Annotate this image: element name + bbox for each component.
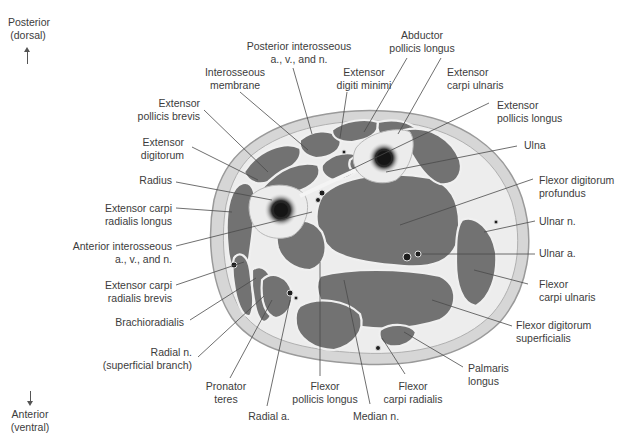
label-flexor-digitorum-superficialis: Flexor digitorum superficialis xyxy=(516,319,591,344)
label-ulna: Ulna xyxy=(524,139,546,152)
label-pronator-teres: Pronator teres xyxy=(196,380,256,405)
posterior-arrow-icon xyxy=(27,50,28,64)
label-extensor-carpi-ulnaris: Extensor carpi ulnaris xyxy=(447,66,504,91)
label-flexor-pollicis-longus: Flexor pollicis longus xyxy=(285,380,365,405)
label-flexor-carpi-ulnaris: Flexor carpi ulnaris xyxy=(539,278,596,303)
label-interosseous-membrane: Interosseous membrane xyxy=(200,66,270,91)
label-ulnar-n: Ulnar n. xyxy=(539,215,576,228)
label-anterior-interosseous: Anterior interosseous a., v., and n. xyxy=(50,240,172,265)
label-flexor-carpi-radialis: Flexor carpi radialis xyxy=(375,380,451,405)
anterior-orientation-label: Anterior (ventral) xyxy=(10,408,50,433)
label-posterior-interosseous: Posterior interosseous a., v., and n. xyxy=(240,40,358,65)
posterior-orientation-label: Posterior (dorsal) xyxy=(8,16,48,41)
label-extensor-pollicis-brevis: Extensor pollicis brevis xyxy=(120,97,200,122)
label-extensor-carpi-radialis-longus: Extensor carpi radialis longus xyxy=(70,202,172,227)
label-radial-n: Radial n. (superficial branch) xyxy=(80,346,192,371)
anterior-arrowhead-icon xyxy=(27,401,33,406)
radius-bone xyxy=(249,185,308,238)
label-extensor-digitorum: Extensor digitorum xyxy=(110,136,184,161)
posterior-arrowhead-icon xyxy=(24,47,30,52)
label-brachioradialis: Brachioradialis xyxy=(90,316,184,329)
label-flexor-digitorum-profundus: Flexor digitorum profundus xyxy=(539,174,614,199)
label-median-n: Median n. xyxy=(345,410,407,423)
label-ulnar-a: Ulnar a. xyxy=(539,247,576,260)
flexor-digitorum-profundus-shape xyxy=(317,175,460,267)
label-palmaris-longus: Palmaris longus xyxy=(468,362,509,387)
label-extensor-pollicis-longus: Extensor pollicis longus xyxy=(497,99,562,124)
label-extensor-digiti-minimi: Extensor digiti minimi xyxy=(328,66,400,91)
label-radius: Radius xyxy=(110,174,172,187)
label-abductor-pollicis-longus: Abductor pollicis longus xyxy=(377,29,467,54)
label-extensor-carpi-radialis-brevis: Extensor carpi radialis brevis xyxy=(70,279,172,304)
label-radial-a: Radial a. xyxy=(240,410,298,423)
